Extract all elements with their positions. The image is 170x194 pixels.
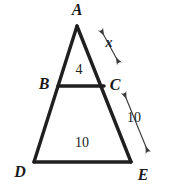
vertex-label-d: D (14, 164, 26, 180)
vertex-label-c: C (110, 77, 121, 93)
vertex-label-b: B (39, 76, 50, 92)
vertex-label-a: A (72, 2, 83, 18)
measure-label-bc: 4 (76, 63, 83, 77)
measure-label-x: x (106, 36, 113, 50)
measure-label-de: 10 (75, 136, 89, 150)
measure-label-ce: 10 (127, 111, 141, 125)
vertex-label-e: E (138, 167, 149, 183)
geometry-figure-screenshot: A B C D E 4 10 x 10 (0, 0, 170, 194)
segment-AD (34, 26, 77, 162)
